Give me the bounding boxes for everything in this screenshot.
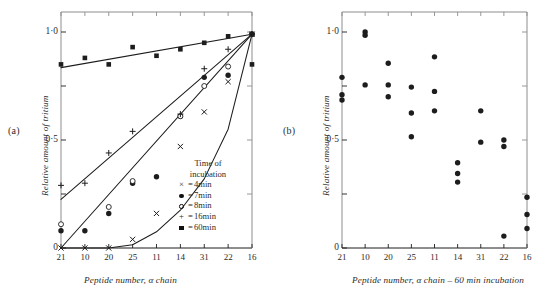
panel-b-point	[386, 82, 391, 87]
panel-a-x-tick-label: 16	[240, 252, 264, 262]
panel-b-point	[524, 195, 529, 200]
plus-icon: +	[176, 211, 187, 222]
panel-a-y-axis-title: Relative amount of tritium	[40, 95, 50, 196]
panel-a-point-4min	[226, 79, 231, 84]
panel-a-y-tick-label: 0·5	[32, 134, 58, 144]
panel-a-point-16min	[201, 66, 207, 72]
panel-b-point	[432, 108, 437, 113]
panel-a-legend: Time of incubation ×=4min=7min=8min+=16m…	[176, 158, 240, 232]
panel-b-x-tick-label: 14	[446, 252, 470, 262]
panel-b-point	[432, 54, 437, 59]
panel-b-y-tick-label: 0·5	[313, 134, 339, 144]
panel-b-point	[432, 89, 437, 94]
panel-b-point	[339, 75, 344, 80]
legend-title-line1: Time of	[176, 158, 240, 169]
legend-entries: ×=4min=7min=8min+=16min=60min	[176, 179, 240, 232]
panel-b-x-tick-label: 20	[376, 252, 400, 262]
panel-a-fit-60min-line	[61, 34, 252, 67]
panel-a-y-tick-label: 1·0	[32, 26, 58, 36]
panel-a-x-tick-label: 14	[168, 252, 192, 262]
panel-a-point-8min	[130, 179, 135, 184]
panel-b-frame	[342, 12, 527, 248]
panel-b-point	[478, 139, 483, 144]
panel-b-x-tick-label: 22	[492, 252, 516, 262]
open-circle-icon	[176, 200, 187, 211]
panel-b-point	[455, 179, 460, 184]
panel-a-point-60min	[130, 45, 135, 50]
legend-entry: +=16min	[176, 211, 240, 222]
panel-a-x-tick-label: 11	[145, 252, 169, 262]
panel-a-point-16min	[225, 46, 231, 52]
panel-a-point-4min	[202, 109, 207, 114]
legend-equals: =	[187, 179, 194, 190]
panel-a-x-tick-label: 25	[121, 252, 145, 262]
legend-equals: =	[187, 190, 194, 201]
panel-a-x-tick-label: 10	[73, 252, 97, 262]
legend-label: 60min	[194, 222, 216, 233]
panel-a-x-tick-label: 20	[97, 252, 121, 262]
panel-b-x-tick-label: 16	[515, 252, 537, 262]
filled-square-icon	[176, 222, 187, 233]
panel-b-point	[339, 92, 344, 97]
panel-b-point	[362, 33, 367, 38]
filled-circle-icon	[176, 190, 187, 201]
panel-b-x-tick-label: 11	[423, 252, 447, 262]
panel-a-point-7min	[106, 211, 111, 216]
panel-a-point-7min	[82, 228, 87, 233]
panel-a-point-4min	[130, 237, 135, 242]
legend-label: 16min	[194, 211, 216, 222]
panel-a-point-60min	[154, 53, 159, 58]
panel-a-point-16min	[106, 150, 112, 156]
legend-label: 7min	[194, 190, 212, 201]
panel-b-x-tick-label: 10	[353, 252, 377, 262]
panel-a-point-60min	[226, 34, 231, 39]
panel-b-point	[409, 134, 414, 139]
panel-b-y-tick-label: 0	[313, 242, 339, 252]
panel-a-point-60min	[83, 56, 88, 61]
panel-a-point-60min-extra	[250, 62, 255, 67]
legend-label: 4min	[194, 179, 212, 190]
legend-entry: =7min	[176, 190, 240, 201]
panel-a-x-tick-label: 22	[216, 252, 240, 262]
legend-equals: =	[187, 200, 194, 211]
panel-b-y-tick-label: 1·0	[313, 26, 339, 36]
panel-a-point-60min	[250, 32, 255, 37]
panel-b-label: (b)	[283, 125, 295, 136]
panel-a-point-60min	[106, 62, 111, 67]
panel-a-point-7min	[154, 174, 159, 179]
panel-b-x-tick-label: 25	[399, 252, 423, 262]
panel-b-point	[501, 137, 506, 142]
cross-icon: ×	[176, 179, 187, 190]
panel-a-point-16min	[58, 182, 64, 188]
panel-a-point-8min	[106, 204, 111, 209]
panel-a-point-60min	[59, 62, 64, 67]
panel-a-point-4min	[154, 211, 159, 216]
panel-b-point	[409, 84, 414, 89]
legend-equals: =	[187, 222, 194, 233]
legend-entry: =8min	[176, 200, 240, 211]
figure-container: (a) (b) Relative amount of tritium Relat…	[0, 0, 537, 297]
panel-b-point	[501, 144, 506, 149]
panel-a-label: (a)	[8, 125, 20, 136]
panel-b-point	[362, 82, 367, 87]
panel-b-point	[501, 233, 506, 238]
panel-b-point	[455, 171, 460, 176]
legend-entry: ×=4min	[176, 179, 240, 190]
legend-equals: =	[187, 211, 194, 222]
panel-a-x-tick-label: 21	[49, 252, 73, 262]
panel-b-point	[524, 212, 529, 217]
panel-a-point-8min	[226, 64, 231, 69]
legend-entry: =60min	[176, 222, 240, 233]
panel-a-point-8min	[202, 84, 207, 89]
panel-b-x-tick-label: 31	[469, 252, 493, 262]
panel-a-point-60min	[178, 47, 183, 52]
panel-a-x-axis-title: Peptide number, α chain	[84, 275, 177, 285]
panel-b-point	[455, 160, 460, 165]
panel-a-point-60min	[202, 41, 207, 46]
panel-a-point-7min	[225, 73, 230, 78]
panel-b-point	[478, 108, 483, 113]
panel-b-point	[339, 97, 344, 102]
panel-b-x-tick-label: 21	[330, 252, 354, 262]
legend-title-line2: incubation	[176, 169, 240, 180]
panel-b-y-axis-title: Relative amount of tritium	[321, 95, 331, 196]
